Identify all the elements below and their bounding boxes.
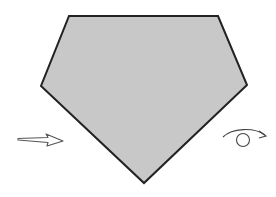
rotate-clockwise-icon	[223, 130, 266, 147]
diagram-canvas	[0, 0, 276, 197]
pentagon-shape	[41, 16, 247, 183]
arrow-right-icon	[18, 134, 63, 146]
diagram-svg	[0, 0, 276, 197]
